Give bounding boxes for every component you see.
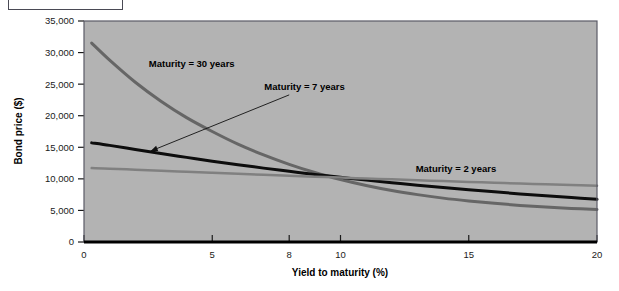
x-tick-label: 15 <box>463 249 474 260</box>
plot-area-background <box>84 21 597 242</box>
bond-price-chart-figure: 05,00010,00015,00020,00025,00030,00035,0… <box>0 0 619 291</box>
chart-canvas: 05,00010,00015,00020,00025,00030,00035,0… <box>0 0 619 291</box>
x-tick-label: 20 <box>592 249 603 260</box>
x-tick-label: 8 <box>287 249 292 260</box>
y-tick-label: 20,000 <box>45 110 74 121</box>
series-label-0: Maturity = 30 years <box>149 58 235 69</box>
x-tick-label: 5 <box>210 249 215 260</box>
x-tick-label: 10 <box>335 249 346 260</box>
y-tick-label: 25,000 <box>45 79 74 90</box>
series-label-2: Maturity = 2 years <box>416 163 497 174</box>
y-tick-label: 10,000 <box>45 173 74 184</box>
y-tick-label: 15,000 <box>45 142 74 153</box>
x-axis-title: Yield to maturity (%) <box>292 267 388 278</box>
y-tick-label: 5,000 <box>50 205 74 216</box>
y-tick-label: 30,000 <box>45 47 74 58</box>
y-axis-title: Bond price ($) <box>13 97 24 164</box>
y-tick-label: 35,000 <box>45 15 74 26</box>
series-label-1: Maturity = 7 years <box>264 81 345 92</box>
y-tick-label: 0 <box>69 236 74 247</box>
x-tick-label: 0 <box>81 249 86 260</box>
y-axis-ticks: 05,00010,00015,00020,00025,00030,00035,0… <box>45 15 84 247</box>
